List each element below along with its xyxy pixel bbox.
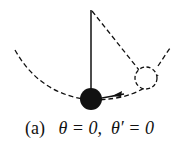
figure-caption: (a) θ = 0, θ′ = 0	[0, 118, 179, 139]
displaced-bob	[135, 67, 157, 89]
motion-arrow-icon	[102, 91, 124, 98]
figure-label: (a)	[25, 118, 45, 138]
theta-condition: θ = 0,	[59, 118, 103, 138]
pendulum-bob	[80, 88, 102, 110]
displaced-rod	[92, 11, 139, 70]
theta-prime-condition: θ′ = 0	[111, 118, 154, 138]
